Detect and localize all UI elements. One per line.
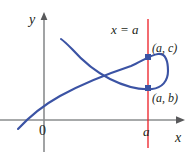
y-axis-arrow-icon: [41, 12, 48, 20]
point-label-a-c: (a, c): [152, 42, 177, 54]
vertical-line-label: x = a: [111, 23, 139, 36]
point-marker-a-b: [145, 85, 151, 91]
origin-label: 0: [39, 124, 46, 138]
y-axis-label: y: [29, 13, 35, 27]
x-axis-label: x: [175, 131, 181, 145]
point-label-a-b: (a, b): [152, 92, 178, 104]
point-marker-a-c: [145, 54, 151, 60]
x-axis-arrow-icon: [176, 116, 185, 124]
graph-figure: y x 0 a x = a (a, c) (a, b): [0, 0, 193, 152]
curve-path: [18, 39, 168, 129]
x-tick-label-a: a: [143, 125, 150, 138]
